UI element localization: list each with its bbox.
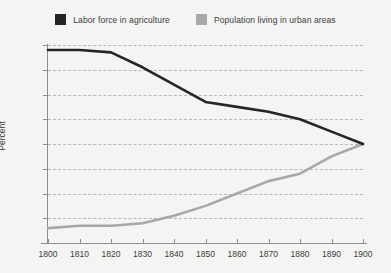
series-line-labor-force: [48, 50, 363, 144]
series-line-urban-population: [48, 144, 363, 228]
series-layer: [0, 0, 391, 273]
line-chart: Labor force in agriculture Population li…: [0, 0, 391, 273]
